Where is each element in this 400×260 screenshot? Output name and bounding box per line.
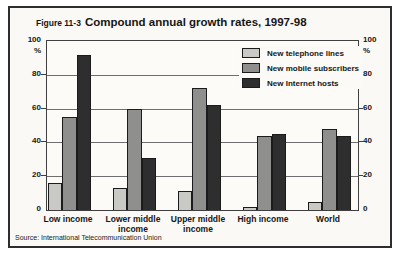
legend-item: New Internet hosts (242, 78, 359, 88)
bar (77, 55, 91, 210)
category-label: High income (229, 214, 297, 224)
legend-item: New mobile subscribers (242, 63, 359, 73)
y-axis-label-right: 80 (363, 69, 389, 79)
bar (62, 117, 76, 210)
category-label: Upper middle income (164, 214, 232, 234)
figure-frame: Figure 11-3Compound annual growth rates,… (8, 6, 392, 248)
y-axis-unit-right: % (363, 46, 389, 56)
bar (257, 136, 271, 210)
bar (272, 134, 286, 210)
bar (127, 109, 141, 210)
bar (243, 207, 257, 210)
legend-label: New mobile subscribers (267, 64, 359, 73)
bar (192, 88, 206, 210)
bar (337, 136, 351, 210)
y-axis-label-left: 40 (15, 136, 41, 146)
y-tick-mark-left (41, 141, 46, 142)
legend-label: New telephone lines (267, 49, 344, 58)
figure-title: Compound annual growth rates, 1997-98 (85, 16, 307, 28)
legend-swatch (242, 63, 260, 73)
y-axis-label-left: 100 (15, 35, 41, 45)
y-axis-label-left: 0 (15, 204, 41, 214)
y-axis-label-right: 40 (363, 136, 389, 146)
y-tick-mark-left (41, 74, 46, 75)
bar-group (178, 41, 221, 210)
chart-legend: New telephone linesNew mobile subscriber… (239, 46, 363, 89)
figure-title-row: Figure 11-3Compound annual growth rates,… (36, 12, 307, 30)
category-label: Low income (34, 214, 102, 224)
category-label: World (294, 214, 362, 224)
y-axis-label-right: 0 (363, 204, 389, 214)
legend-swatch (242, 78, 260, 88)
bar (48, 183, 62, 210)
bar-group (113, 41, 156, 210)
bar (322, 129, 336, 210)
legend-swatch (242, 48, 260, 58)
bar (113, 188, 127, 210)
bar (207, 105, 221, 210)
source-note: Source: International Telecommunication … (15, 234, 162, 241)
y-axis-label-right: 100 (363, 35, 389, 45)
y-axis-label-left: 60 (15, 103, 41, 113)
figure-number: Figure 11-3 (36, 18, 81, 28)
y-axis-label-left: 80 (15, 69, 41, 79)
y-tick-mark-left (41, 175, 46, 176)
y-tick-mark-left (41, 108, 46, 109)
y-axis-label-left: 20 (15, 170, 41, 180)
bar (178, 191, 192, 210)
y-axis-label-right: 20 (363, 170, 389, 180)
y-axis-unit-left: % (15, 46, 41, 56)
category-label: Lower middle income (99, 214, 167, 234)
bar-group (48, 41, 91, 210)
bar (142, 158, 156, 210)
y-axis-label-right: 60 (363, 103, 389, 113)
legend-item: New telephone lines (242, 48, 359, 58)
bar (308, 202, 322, 210)
legend-label: New Internet hosts (267, 79, 339, 88)
